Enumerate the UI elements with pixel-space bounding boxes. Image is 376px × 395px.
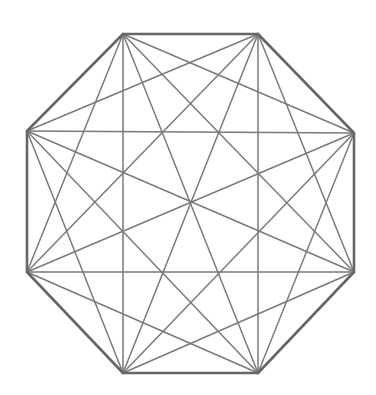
diagonal-CF <box>123 133 354 373</box>
octagon-side-FG <box>27 272 123 373</box>
octagon-side-AH <box>27 34 123 131</box>
diagonal-EH <box>27 131 258 373</box>
octagon-side-DE <box>258 272 354 373</box>
diagonal-FH <box>27 131 123 373</box>
diagonal-AG <box>27 34 123 272</box>
diagonal-CH <box>27 131 354 133</box>
octagon-diagonals-diagram <box>0 0 376 395</box>
diagonal-CE <box>258 133 354 373</box>
diagonal-AD <box>123 34 354 272</box>
octagon-side-BC <box>258 34 354 133</box>
diagonal-BH <box>27 34 258 131</box>
diagonal-BG <box>27 34 258 272</box>
